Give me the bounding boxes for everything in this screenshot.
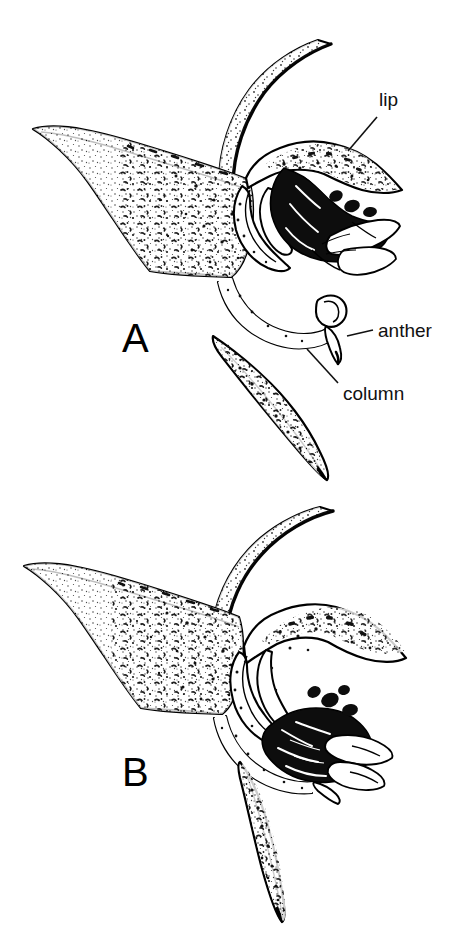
panel-b-drawing (16, 507, 413, 928)
column-a (218, 278, 331, 348)
leader-line-lip (348, 117, 377, 151)
panel-a-drawing (25, 40, 410, 490)
panel-letter-b: B (122, 752, 149, 792)
annotation-label-column: column (343, 384, 404, 403)
figure-root: A B lip anther column (0, 0, 454, 952)
panel-letter-a: A (122, 318, 149, 358)
orchid-illustration-svg (0, 0, 454, 952)
annotation-label-anther: anther (378, 321, 432, 340)
lateral-sepal-left-b (16, 557, 256, 727)
lip-b (262, 684, 392, 791)
annotation-label-lip: lip (379, 90, 398, 109)
anther-a (316, 296, 347, 365)
leader-line-anther (347, 330, 373, 336)
lateral-sepal-lower-a (205, 330, 340, 490)
